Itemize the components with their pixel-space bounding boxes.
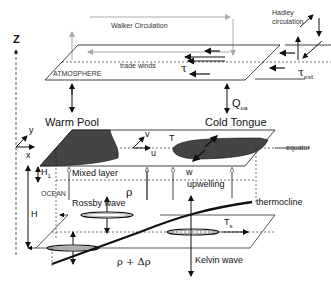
- coupling-arrows: [72, 84, 227, 113]
- q-oa-label: Qoa: [232, 98, 247, 111]
- diagram-canvas: [0, 0, 331, 285]
- trade-winds-label: trade winds: [120, 62, 156, 69]
- t-label: T: [169, 134, 175, 143]
- tau-ext-label: τext: [298, 67, 313, 80]
- ts-label: Ts: [224, 218, 233, 229]
- rho-label: ρ: [126, 187, 132, 198]
- rossby-wave-label: Rossby wave: [72, 199, 126, 208]
- tau-label: τ: [181, 63, 187, 74]
- v-label: v: [145, 130, 150, 139]
- w-label: w: [186, 168, 193, 177]
- ocean-label: OCEAN: [41, 190, 66, 197]
- depth-arrows: [28, 166, 38, 247]
- cold-tongue-label: Cold Tongue: [205, 117, 267, 128]
- warm-pool-label: Warm Pool: [45, 117, 99, 128]
- hadley-label: Hadley: [272, 9, 294, 16]
- xy-axes: [16, 136, 34, 147]
- h-label: H: [31, 210, 38, 219]
- y-axis-label: y: [29, 126, 34, 135]
- z-axis-label: Z: [13, 34, 20, 45]
- thermocline-label: thermocline: [256, 198, 303, 207]
- x-axis-label: x: [26, 151, 31, 160]
- atmosphere-label: ATMOSPHERE: [53, 70, 102, 77]
- kelvin-wave-label: Kelvin wave: [195, 256, 243, 265]
- mixed-layer-label: Mixed layer: [72, 169, 118, 178]
- u-label: u: [151, 149, 156, 158]
- h1-label: H1: [41, 168, 51, 179]
- upwelling-label: upwelling: [187, 180, 225, 189]
- hadley-circulation-label: circulation: [272, 18, 304, 25]
- rho-delta-rho-label: ρ + Δρ: [117, 257, 151, 267]
- walker-circulation-label: Walker Circulation: [111, 22, 168, 29]
- equator-label: equator: [286, 144, 310, 151]
- mixed-layer-plane: [40, 130, 310, 240]
